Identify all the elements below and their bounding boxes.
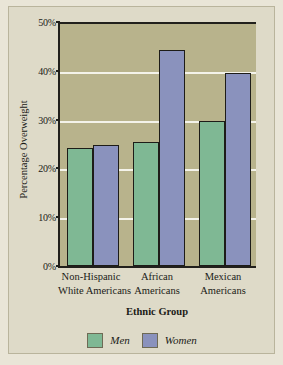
y-axis-ticks: 0%10%20%30%40%50% (9, 7, 56, 365)
plot-area (58, 22, 256, 266)
x-axis-tick-label-line: White Americans (58, 284, 124, 298)
legend-entry-women: Women (142, 333, 197, 348)
bar-women-1 (159, 50, 185, 266)
legend: MenWomen (37, 329, 247, 351)
bar-men-1 (133, 142, 159, 266)
x-axis-title: Ethnic Group (58, 306, 256, 317)
bar-women-0 (93, 145, 119, 267)
x-axis-tick-label-line: Americans (124, 284, 190, 298)
chart-panel: 0%10%20%30%40%50% Percentage Overweight … (8, 6, 275, 354)
figure: 0%10%20%30%40%50% Percentage Overweight … (0, 0, 283, 365)
bar-men-0 (67, 148, 93, 266)
legend-entry-men: Men (87, 333, 130, 348)
legend-swatch-women (142, 333, 158, 348)
x-axis-tick-label-line: Mexican (190, 270, 256, 284)
bar-men-2 (199, 121, 225, 266)
y-axis-title: Percentage Overweight (18, 70, 29, 230)
x-axis-tick-label-line: Americans (190, 284, 256, 298)
y-axis-tick-label: 0% (12, 261, 56, 272)
legend-swatch-men (87, 333, 103, 348)
x-axis-tick-label: AfricanAmericans (124, 270, 190, 297)
x-axis-tick-label: MexicanAmericans (190, 270, 256, 297)
x-axis-tick-label: Non-HispanicWhite Americans (58, 270, 124, 297)
bar-women-2 (225, 73, 251, 266)
x-axis-tick-label-line: Non-Hispanic (58, 270, 124, 284)
x-axis-tick-label-line: African (124, 270, 190, 284)
legend-label-women: Women (165, 334, 197, 346)
legend-label-men: Men (110, 334, 130, 346)
x-axis-line (58, 266, 256, 268)
y-axis-tick-label: 50% (12, 17, 56, 28)
